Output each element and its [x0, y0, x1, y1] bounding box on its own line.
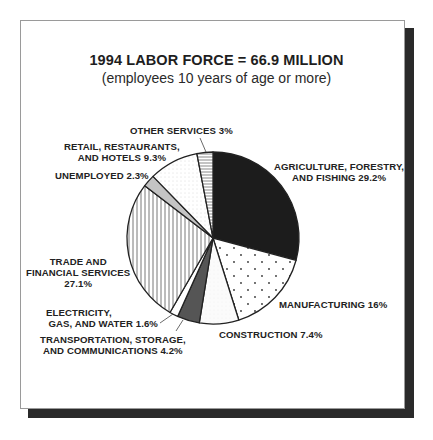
label-trade: TRADE AND FINANCIAL SERVICES 27.1%	[26, 256, 130, 289]
label-electricity: ELECTRICITY, GAS, AND WATER 1.6%	[46, 307, 158, 329]
label-retail: RETAIL, RESTAURANTS, AND HOTELS 9.3%	[64, 141, 180, 163]
label-agriculture: AGRICULTURE, FORESTRY, AND FISHING 29.2%	[274, 161, 404, 183]
label-unemployed: UNEMPLOYED 2.3%	[55, 170, 149, 181]
leader-transportation	[176, 320, 183, 331]
label-manufacturing: MANUFACTURING 16%	[279, 299, 387, 310]
leader-electricity	[160, 314, 173, 323]
label-construction: CONSTRUCTION 7.4%	[219, 329, 323, 340]
label-other-services: OTHER SERVICES 3%	[130, 125, 233, 136]
leader-other-services	[200, 138, 206, 152]
label-transportation: TRANSPORTATION, STORAGE, AND COMMUNICATI…	[40, 334, 186, 356]
pie-chart	[0, 0, 433, 440]
